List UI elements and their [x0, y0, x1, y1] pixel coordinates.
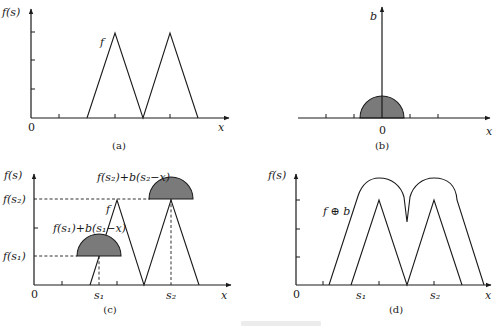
x-axis-label: x: [221, 289, 228, 302]
y-axis-label: b: [370, 10, 377, 23]
origin-label: 0: [293, 288, 300, 301]
curve-label-f: f: [99, 36, 106, 49]
panel-caption: (b): [375, 140, 389, 151]
figure-caption-faint: [241, 321, 321, 326]
panel-d: f(s) f ⊕ b 0 s₁ s₂ x (d): [267, 169, 492, 315]
function-f-curve: [351, 200, 462, 285]
sample-label-s2: s₂: [166, 289, 176, 302]
panel-a: f(s) f 0 x (a): [1, 6, 229, 151]
panel-b: b 0 x (b): [298, 7, 493, 151]
origin-label: 0: [31, 288, 38, 301]
sample-label-s1: s₁: [356, 289, 366, 302]
y-axis-label: f(s): [267, 169, 286, 182]
origin-label: 0: [379, 124, 386, 137]
dilation-figure: f(s) f 0 x (a) b 0 x (b): [0, 0, 497, 327]
curve-label-f: f: [105, 203, 112, 216]
x-axis-label: x: [218, 121, 225, 134]
sample-label-s1: s₁: [94, 289, 104, 302]
panel-c: f(s) f(s₂) f(s₁) f f(s₂)+b(s₂−x) f(s₁)+b…: [2, 169, 231, 315]
y-axis-label: f(s): [1, 6, 20, 19]
annotation-upper: f(s₂)+b(s₂−x): [96, 171, 170, 184]
y-axis-label: f(s): [3, 169, 22, 182]
level-label-fs1: f(s₁): [2, 250, 26, 263]
structuring-element-at-s1: [77, 234, 121, 256]
panel-caption: (d): [389, 304, 403, 315]
x-axis-label: x: [486, 125, 493, 138]
curve-label-dilation: f ⊕ b: [322, 205, 350, 218]
origin-label: 0: [28, 121, 35, 134]
panel-caption: (c): [103, 304, 117, 315]
dilation-result-curve: [329, 178, 484, 285]
panel-caption: (a): [112, 140, 126, 151]
level-label-fs2: f(s₂): [2, 193, 26, 206]
x-axis-label: x: [485, 289, 492, 302]
sample-label-s2: s₂: [430, 289, 440, 302]
annotation-lower: f(s₁)+b(s₁−x): [52, 222, 126, 235]
